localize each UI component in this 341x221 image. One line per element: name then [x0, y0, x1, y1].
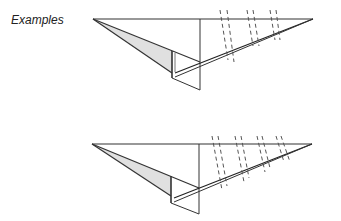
paper-plane-diagram-1: [0, 0, 341, 110]
paper-plane-diagram-2: [0, 110, 341, 220]
